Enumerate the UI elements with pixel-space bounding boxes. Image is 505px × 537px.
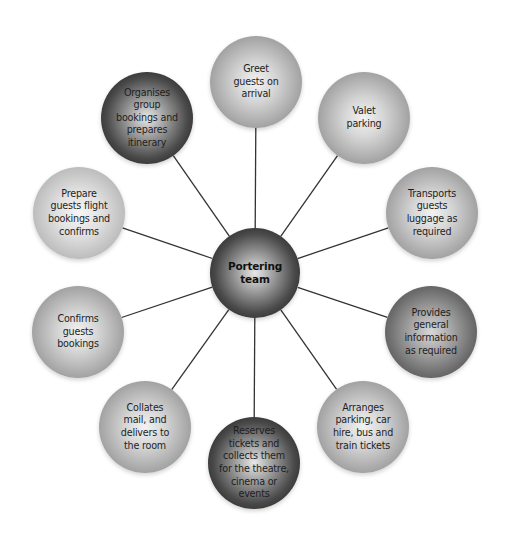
node-organises: Organises group bookings and prepares it… <box>101 72 193 164</box>
connector-line-collates <box>172 310 229 390</box>
center-node-portering-team: Portering team <box>210 228 300 318</box>
connector-line-provides <box>298 287 388 317</box>
node-label-valet: Valet parking <box>347 105 382 130</box>
node-reserves: Reserves tickets and collects them for t… <box>208 417 300 509</box>
node-transports: Transports guests luggage as required <box>386 167 478 259</box>
node-provides: Provides general information as required <box>385 286 477 378</box>
node-label-prepare: Prepare guests flight bookings and confi… <box>48 188 110 238</box>
node-arranges: Arranges parking, car hire, bus and trai… <box>317 381 409 473</box>
connector-line-confirms <box>122 287 213 317</box>
connector-line-organises <box>173 156 229 236</box>
node-valet: Valet parking <box>318 72 410 164</box>
node-label-reserves: Reserves tickets and collects them for t… <box>219 425 289 501</box>
node-confirms: Confirms guests bookings <box>32 286 124 378</box>
node-label-transports: Transports guests luggage as required <box>407 188 458 238</box>
node-prepare: Prepare guests flight bookings and confi… <box>33 167 125 259</box>
connector-line-valet <box>281 156 338 237</box>
node-label-arranges: Arranges parking, car hire, bus and trai… <box>333 402 393 452</box>
connector-line-transports <box>298 228 389 259</box>
portering-team-diagram: Greet guests on arrivalValet parkingTran… <box>0 0 505 537</box>
connector-line-arranges <box>281 310 337 390</box>
node-label-collates: Collates mail, and delivers to the room <box>121 402 169 452</box>
node-greet: Greet guests on arrival <box>210 36 302 128</box>
connector-line-reserves <box>254 318 255 417</box>
node-label-greet: Greet guests on arrival <box>233 63 278 101</box>
connector-line-greet <box>255 128 256 228</box>
node-label-confirms: Confirms guests bookings <box>57 313 99 351</box>
node-label-provides: Provides general information as required <box>404 307 457 357</box>
connector-line-prepare <box>123 228 213 259</box>
center-node-label: Portering team <box>228 260 282 286</box>
node-label-organises: Organises group bookings and prepares it… <box>116 87 178 150</box>
node-collates: Collates mail, and delivers to the room <box>99 381 191 473</box>
